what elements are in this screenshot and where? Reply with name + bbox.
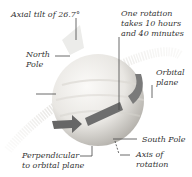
planet-saturn xyxy=(52,54,144,146)
label-south-pole: South Pole xyxy=(142,135,186,144)
saturn-diagram: Axial tilt of 26.7° One rotation takes 1… xyxy=(0,0,192,177)
label-rotation-line2: takes 10 hours xyxy=(121,19,181,28)
label-perpendicular-line1: Perpendicular xyxy=(22,151,79,160)
label-axis-line2: rotation xyxy=(136,160,168,169)
label-rotation-line3: and 40 minutes xyxy=(121,29,184,38)
axis-beam-top xyxy=(62,25,84,55)
label-orbital-plane-line2: plane xyxy=(156,78,178,87)
label-north-pole-line1: North xyxy=(26,50,50,59)
label-perpendicular-line2: to orbital plane xyxy=(22,161,84,170)
label-axial-tilt: Axial tilt of 26.7° xyxy=(11,10,80,19)
label-axis-line1: Axis of xyxy=(136,150,163,159)
label-orbital-plane-line1: Orbital xyxy=(156,68,185,77)
label-north-pole-line2: Pole xyxy=(26,60,43,69)
label-rotation-line1: One rotation xyxy=(121,9,172,18)
